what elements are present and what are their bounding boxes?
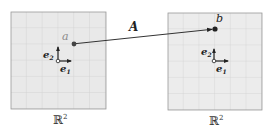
codomain-e2-subscript: 2 [207,51,211,58]
domain-e1-subscript: 1 [66,68,70,75]
codomain-space-symbol: ℝ [209,114,219,128]
domain-space-symbol: ℝ [53,113,63,127]
codomain-plane [168,13,262,110]
domain-plane [11,12,106,109]
codomain-e1-label: e1 [216,64,227,75]
domain-e2-label: e2 [43,50,54,61]
domain-space-label: ℝ2 [53,114,67,126]
domain-space-exponent: 2 [63,113,67,121]
point-b [212,26,217,31]
codomain-space-exponent: 2 [219,114,223,122]
point-b-label: b [216,13,223,24]
map-label: A [129,21,138,33]
codomain-space-label: ℝ2 [209,115,223,127]
domain-e2-subscript: 2 [49,54,53,61]
codomain-e1-subscript: 1 [222,68,226,75]
codomain-e2-label: e2 [201,47,212,58]
point-a-label: a [62,31,69,42]
domain-e1-label: e1 [60,64,71,75]
point-a [72,42,77,47]
